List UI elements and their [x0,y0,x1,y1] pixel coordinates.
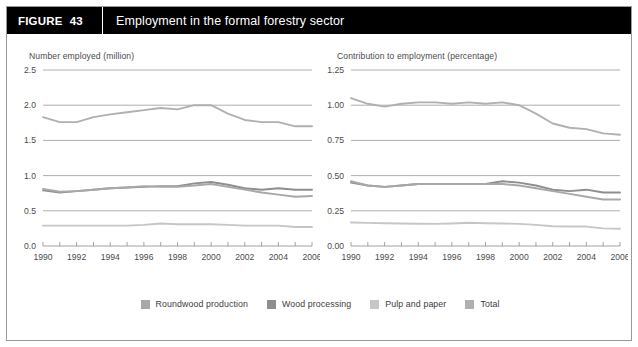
legend-label: Roundwood production [156,299,248,309]
y-axis-tick-label: 1.5 [24,135,36,145]
x-axis-tick-label: 2000 [510,252,529,262]
chart-plot-right: 0.000.250.500.751.001.251990199219941996… [315,34,628,284]
chart-legend: Roundwood productionWood processingPulp … [7,286,633,322]
legend-label: Pulp and paper [385,299,446,309]
x-axis-tick-label: 2002 [543,252,562,262]
y-axis-tick-label: 1.00 [327,100,344,110]
chart-panel-employment-share: Contribution to employment (percentage) … [315,34,628,284]
legend-swatch-icon [465,300,474,309]
legend-swatch-icon [370,300,379,309]
chart-panel-employment-count: Number employed (million) 0.00.51.01.52.… [7,34,320,284]
y-axis-tick-label: 1.0 [24,171,36,181]
y-axis-tick-label: 2.5 [24,65,36,75]
x-axis-tick-label: 1990 [341,252,360,262]
chart-panels: Number employed (million) 0.00.51.01.52.… [7,34,633,342]
x-axis-tick-label: 2004 [269,252,288,262]
series-line-pulp-and-paper [351,222,620,228]
chart-plot-left: 0.00.51.01.52.02.51990199219941996199820… [7,34,320,284]
figure-number-value: 43 [70,15,83,27]
y-axis-tick-label: 0.25 [327,206,344,216]
figure-number-label: FIGURE [18,15,63,27]
x-axis-tick-label: 2004 [577,252,596,262]
legend-item-wood-processing[interactable]: Wood processing [267,299,351,309]
y-axis-tick-label: 0.00 [327,241,344,251]
x-axis-tick-label: 1992 [375,252,394,262]
x-axis-tick-label: 1996 [134,252,153,262]
legend-label: Total [480,299,499,309]
legend-item-roundwood[interactable]: Roundwood production [141,299,248,309]
y-axis-tick-label: 2.0 [24,100,36,110]
x-axis-tick-label: 2000 [202,252,221,262]
legend-item-total[interactable]: Total [465,299,499,309]
series-line-roundwood-production [43,184,312,197]
x-axis-tick-label: 2002 [235,252,254,262]
series-line-total [351,98,620,135]
y-axis-tick-label: 0.75 [327,135,344,145]
x-axis-tick-label: 1994 [409,252,428,262]
figure-title: Employment in the formal forestry sector [103,14,344,28]
y-axis-tick-label: 0.0 [24,241,36,251]
figure-header: FIGURE 43 Employment in the formal fores… [7,7,631,34]
legend-label: Wood processing [282,299,351,309]
figure-container: FIGURE 43 Employment in the formal fores… [0,0,638,347]
series-line-pulp-and-paper [43,223,312,227]
x-axis-tick-label: 1998 [476,252,495,262]
x-axis-tick-label: 1990 [33,252,52,262]
x-axis-tick-label: 1996 [442,252,461,262]
figure-frame: FIGURE 43 Employment in the formal fores… [6,6,632,341]
y-axis-tick-label: 1.25 [327,65,344,75]
x-axis-tick-label: 1992 [67,252,86,262]
figure-number-block: FIGURE 43 [7,15,102,27]
legend-item-pulp-paper[interactable]: Pulp and paper [370,299,446,309]
legend-swatch-icon [267,300,276,309]
x-axis-tick-label: 2006 [610,252,628,262]
legend-swatch-icon [141,300,150,309]
x-axis-tick-label: 1998 [168,252,187,262]
y-axis-tick-label: 0.5 [24,206,36,216]
x-axis-tick-label: 1994 [101,252,120,262]
y-axis-tick-label: 0.50 [327,171,344,181]
series-line-total [43,105,312,126]
